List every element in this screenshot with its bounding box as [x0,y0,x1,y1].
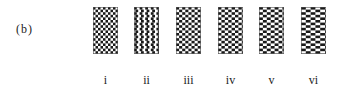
checker-pattern-iii [176,7,201,54]
panel-label: (b) [16,22,33,37]
pattern-label-v: v [257,73,287,88]
pattern-label-i: i [91,73,121,88]
checker-pattern-iv [218,7,243,54]
pattern-label-iii: iii [174,73,204,88]
checker-pattern-vi [301,7,326,54]
pattern-label-ii: ii [132,73,162,88]
pattern-label-iv: iv [216,73,246,88]
checker-pattern-ii [134,7,159,54]
checker-pattern-v [259,7,284,54]
checker-pattern-i [93,7,118,54]
pattern-label-vi: vi [299,73,329,88]
